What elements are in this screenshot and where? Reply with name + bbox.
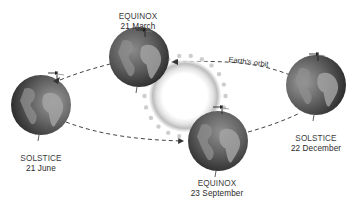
globe-june	[11, 71, 71, 141]
sun-ray	[149, 116, 153, 120]
sun-ray	[222, 82, 226, 86]
sun-ray	[166, 131, 170, 135]
axis-stub	[313, 115, 314, 121]
axis-stub	[215, 171, 216, 177]
orbit-segment-june-march	[60, 64, 110, 80]
sun-ray	[189, 54, 193, 58]
label-march-event: EQUINOX	[119, 12, 157, 22]
sun-ray	[177, 134, 181, 138]
orbit-diagram: Earth's orbit EQUINOX 21 March SOLSTICE …	[0, 0, 357, 202]
sun-ray	[144, 105, 148, 109]
sun-ray	[200, 57, 204, 61]
sun-ray	[177, 54, 181, 58]
label-march-date: 21 March	[119, 22, 157, 32]
sun-ray	[142, 94, 146, 98]
label-december: SOLSTICE 22 December	[291, 134, 341, 153]
orbit-segment-september-december	[248, 113, 300, 132]
label-september: EQUINOX 23 September	[191, 179, 244, 198]
label-september-date: 23 September	[191, 189, 244, 199]
sun-ray	[156, 124, 160, 128]
sun-ray	[209, 63, 213, 67]
sun-ray	[223, 94, 227, 98]
axis-stub	[136, 87, 137, 93]
label-june: SOLSTICE 21 June	[20, 154, 61, 173]
label-december-date: 22 December	[291, 144, 341, 154]
label-june-event: SOLSTICE	[20, 154, 61, 164]
label-september-event: EQUINOX	[191, 179, 244, 189]
label-june-date: 21 June	[20, 164, 61, 174]
label-december-event: SOLSTICE	[291, 134, 341, 144]
axis-stub	[38, 135, 39, 141]
label-march: EQUINOX 21 March	[119, 12, 157, 31]
globe-december	[286, 52, 346, 121]
sun-ray	[217, 72, 221, 76]
